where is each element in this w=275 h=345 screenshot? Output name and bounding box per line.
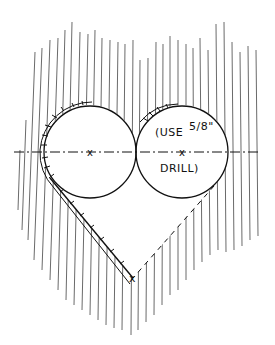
- annotation-drill: DRILL): [160, 162, 199, 175]
- right-center-mark: x: [179, 147, 185, 158]
- tip-mark: x: [129, 272, 136, 285]
- annotation-fraction: 5/8": [189, 120, 214, 133]
- heart-diagram: x x x (USE 5/8" DRILL): [0, 0, 275, 345]
- annotation-use: (USE: [155, 126, 183, 139]
- hatch-lines: [18, 22, 258, 335]
- left-center-mark: x: [87, 147, 93, 158]
